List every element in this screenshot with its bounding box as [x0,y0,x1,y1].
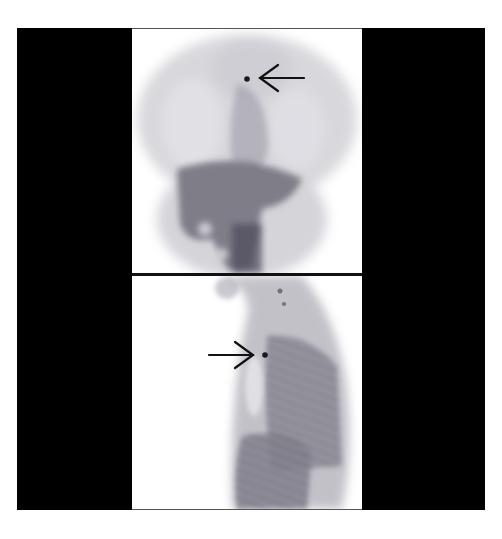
right-black-bar [362,28,485,510]
anterior-scan-image [132,29,362,273]
focal-uptake-spot [262,352,268,358]
left-black-bar [17,28,132,510]
lateral-view-panel [132,276,362,509]
lateral-scan-image [132,276,362,509]
focal-uptake-spot [244,76,250,82]
anterior-view-panel [132,29,362,273]
